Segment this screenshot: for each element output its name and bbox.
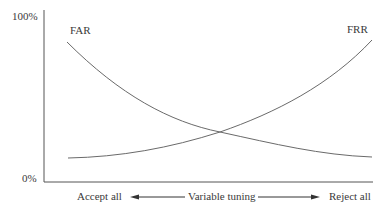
far-label: FAR — [70, 24, 91, 36]
frr-label: FRR — [347, 23, 368, 35]
x-left-label: Accept all — [77, 190, 122, 202]
y-tick-0: 0% — [22, 172, 37, 184]
frr-curve — [68, 40, 372, 158]
x-center-label: Variable tuning — [188, 190, 256, 202]
y-tick-100: 100% — [12, 10, 38, 22]
far-curve — [67, 42, 372, 157]
x-right-label: Reject all — [329, 190, 371, 202]
right-arrow-icon — [311, 195, 320, 200]
left-arrow-icon — [130, 195, 139, 200]
chart-canvas — [0, 0, 385, 212]
